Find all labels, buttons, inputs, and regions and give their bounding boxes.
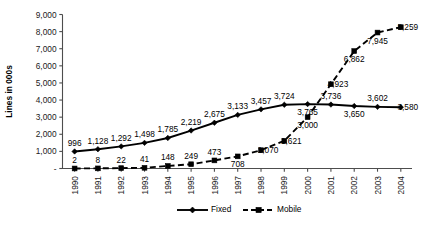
data-point-mobile — [189, 162, 194, 167]
data-label-fixed: 1,128 — [88, 136, 109, 146]
data-label-mobile: 708 — [231, 159, 245, 169]
data-point-mobile — [96, 166, 101, 171]
data-point-mobile — [142, 165, 147, 170]
data-label-fixed: 3,650 — [344, 109, 365, 119]
data-label-fixed: 2,675 — [204, 109, 225, 119]
data-label-mobile: 7,945 — [367, 36, 388, 46]
data-point-fixed — [328, 102, 333, 107]
data-label-fixed: 1,292 — [111, 133, 132, 143]
x-axis-tick-label: 1998 — [256, 176, 266, 195]
data-label-mobile: 1,621 — [281, 136, 302, 146]
data-point-fixed — [235, 112, 240, 117]
y-axis-tick-label: 4,000 — [36, 95, 57, 105]
data-label-mobile: 8 — [96, 155, 101, 165]
data-point-fixed — [95, 146, 100, 151]
data-point-fixed — [305, 101, 310, 106]
data-point-mobile — [165, 164, 170, 169]
data-point-fixed — [165, 135, 170, 140]
data-label-mobile: 249 — [184, 151, 198, 161]
data-label-fixed: 1,785 — [157, 124, 178, 134]
data-point-fixed — [375, 104, 380, 109]
data-label-mobile: 1,070 — [258, 145, 279, 155]
series-line-mobile — [75, 27, 401, 168]
data-label-mobile: 8,259 — [397, 22, 418, 32]
y-axis-title: Lines in 000s — [4, 65, 14, 118]
x-axis-tick-label: 1993 — [140, 176, 150, 195]
data-point-fixed — [282, 102, 287, 107]
data-label-mobile: 148 — [161, 152, 175, 162]
data-label-fixed: 2,219 — [181, 117, 202, 127]
x-axis-tick-label: 2003 — [373, 176, 383, 195]
data-point-fixed — [142, 140, 147, 145]
x-axis-tick-label: 2000 — [303, 176, 313, 195]
y-axis-tick-label: 6,000 — [36, 61, 57, 71]
x-axis-tick-label: 1996 — [210, 176, 220, 195]
x-axis-tick-label: 1994 — [163, 176, 173, 195]
x-axis-tick-label: 1992 — [116, 176, 126, 195]
data-point-fixed — [258, 107, 263, 112]
legend-label-mobile: Mobile — [277, 204, 302, 214]
data-point-mobile — [212, 158, 217, 163]
data-point-fixed — [188, 128, 193, 133]
chart-canvas: -1,0002,0003,0004,0005,0006,0007,0008,00… — [0, 0, 430, 229]
x-axis-tick-label: 1995 — [186, 176, 196, 195]
data-label-fixed: 996 — [68, 138, 82, 148]
data-point-mobile — [352, 49, 357, 54]
chart-axes — [63, 15, 413, 169]
data-label-mobile: 3,000 — [297, 120, 318, 130]
data-label-mobile: 22 — [117, 155, 127, 165]
data-point-fixed — [119, 144, 124, 149]
data-point-fixed — [72, 149, 77, 154]
data-label-fixed: 1,498 — [134, 129, 155, 139]
y-axis-tick-label: 5,000 — [36, 78, 57, 88]
data-label-mobile: 6,862 — [344, 54, 365, 64]
y-axis-tick-label: 8,000 — [36, 27, 57, 37]
data-label-mobile: 41 — [140, 154, 150, 164]
legend-point-fixed — [190, 207, 196, 213]
x-axis-tick-label: 2002 — [349, 176, 359, 195]
data-point-fixed — [212, 120, 217, 125]
data-point-mobile — [72, 166, 77, 171]
data-label-mobile: 473 — [207, 147, 221, 157]
data-label-mobile: 2 — [72, 155, 77, 165]
data-label-fixed: 3,580 — [397, 102, 418, 112]
data-label-fixed: 3,602 — [367, 93, 388, 103]
data-label-fixed: 3,736 — [321, 91, 342, 101]
x-axis-tick-label: 1991 — [93, 176, 103, 195]
data-label-fixed: 3,765 — [297, 107, 318, 117]
y-axis-tick-label: 2,000 — [36, 129, 57, 139]
y-axis-tick-label: 3,000 — [36, 112, 57, 122]
data-label-fixed: 3,133 — [227, 101, 248, 111]
x-axis-tick-label: 1997 — [233, 176, 243, 195]
data-point-mobile — [119, 166, 124, 171]
y-axis-tick-label: 1,000 — [36, 146, 57, 156]
x-axis-tick-label: 2004 — [396, 176, 406, 195]
data-label-mobile: 4,923 — [328, 79, 349, 89]
data-label-fixed: 3,724 — [274, 91, 295, 101]
y-axis-tick-label: 7,000 — [36, 44, 57, 54]
legend-point-mobile — [256, 207, 261, 212]
x-axis-tick-label: 1999 — [279, 176, 289, 195]
data-label-fixed: 3,457 — [251, 96, 272, 106]
y-axis-tick-label: - — [54, 164, 57, 174]
data-point-mobile — [375, 30, 380, 35]
data-point-mobile — [235, 154, 240, 159]
x-axis-tick-label: 1990 — [70, 176, 80, 195]
y-axis-tick-label: 9,000 — [36, 10, 57, 20]
legend-label-fixed: Fixed — [211, 204, 232, 214]
data-point-fixed — [352, 103, 357, 108]
line-chart: -1,0002,0003,0004,0005,0006,0007,0008,00… — [0, 0, 430, 229]
x-axis-tick-label: 2001 — [326, 176, 336, 195]
